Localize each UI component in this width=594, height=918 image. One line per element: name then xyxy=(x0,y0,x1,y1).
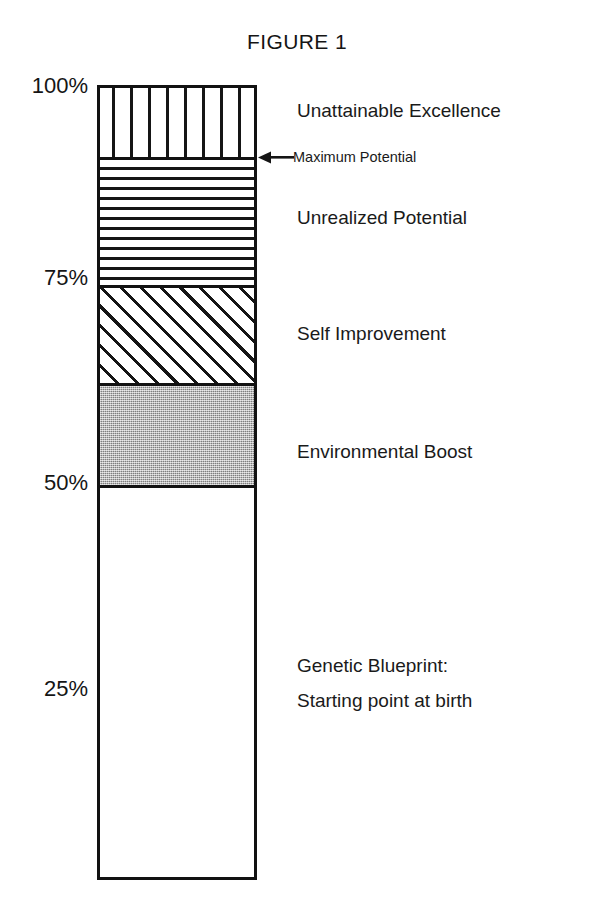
band-genetic-blueprint xyxy=(100,488,254,877)
figure-canvas: FIGURE 1 100% 75% 50% 25% Unattainable E… xyxy=(0,0,594,918)
band-self-improvement xyxy=(100,288,254,383)
band-unrealized-potential xyxy=(100,160,254,286)
label-maximum-potential: Maximum Potential xyxy=(293,146,416,168)
axis-tick-75: 75% xyxy=(0,265,88,291)
label-unrealized-potential: Unrealized Potential xyxy=(297,203,467,232)
label-unattainable-excellence: Unattainable Excellence xyxy=(297,96,501,125)
axis-tick-100: 100% xyxy=(0,73,88,99)
stacked-bar xyxy=(97,85,257,880)
figure-title: FIGURE 1 xyxy=(0,30,594,54)
label-genetic-blueprint-line2: Starting point at birth xyxy=(297,683,472,718)
axis-tick-25: 25% xyxy=(0,676,88,702)
band-environmental-boost xyxy=(100,386,254,485)
label-environmental-boost: Environmental Boost xyxy=(297,437,472,466)
label-genetic-blueprint-line1: Genetic Blueprint: xyxy=(297,648,472,683)
maximum-potential-arrow xyxy=(258,150,294,163)
axis-tick-50: 50% xyxy=(0,470,88,496)
left-arrow-icon xyxy=(258,151,294,164)
label-self-improvement: Self Improvement xyxy=(297,319,446,348)
label-genetic-blueprint: Genetic Blueprint: Starting point at bir… xyxy=(297,648,472,718)
band-unattainable-excellence xyxy=(100,88,254,157)
